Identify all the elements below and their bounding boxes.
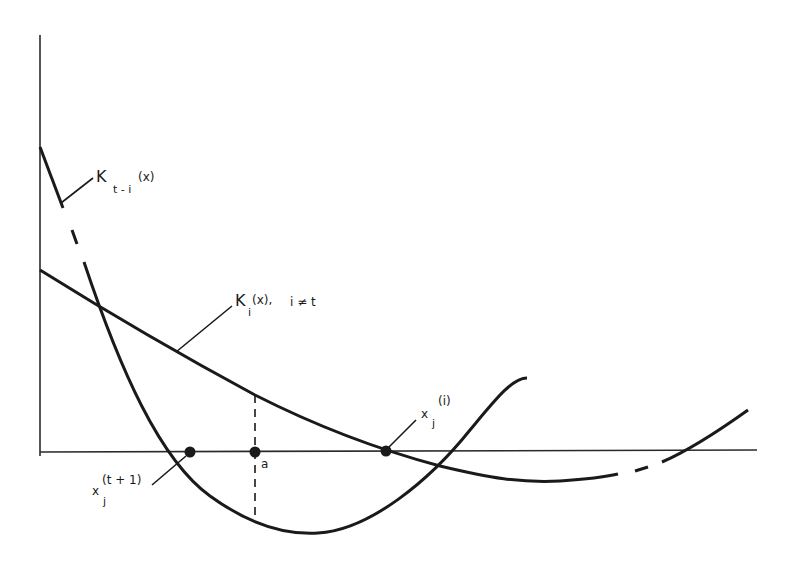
label-x-j-t1-sup: (t + 1) [102, 473, 141, 487]
curve-k-i-right [662, 410, 748, 462]
label-k-t-i-arg: (x) [138, 170, 154, 184]
label-x-j-i-main: x [421, 407, 428, 421]
label-x-j-t1-main: x [92, 484, 99, 498]
diagram-figure: K t - i (x) K i (x), i ≠ t x j (i) a x j… [0, 0, 788, 561]
label-x-j-i: x j (i) [421, 394, 451, 430]
label-x-j-t1: x j (t + 1) [92, 473, 141, 508]
x-axis [40, 450, 757, 452]
label-x-j-t1-sub: j [102, 495, 106, 508]
leader-k-t-i [61, 178, 93, 203]
curve-k-t-i-dash [72, 230, 77, 244]
label-k-i: K i (x), i ≠ t [235, 291, 316, 319]
label-k-i-sub: i [248, 306, 251, 319]
label-a: a [261, 457, 268, 471]
leader-x-j-i [388, 420, 416, 448]
leader-x-j-t1 [152, 456, 186, 485]
label-k-i-cond: i ≠ t [290, 295, 316, 309]
point-a [250, 447, 261, 458]
label-k-i-arg: (x), [252, 293, 272, 307]
leader-k-i [176, 306, 232, 352]
curve-k-t-i-top [40, 147, 63, 208]
label-k-t-i-main: K [96, 167, 107, 186]
label-k-t-i: K t - i (x) [96, 167, 154, 196]
curve-k-i-dash [635, 467, 648, 471]
point-x-j-t1 [185, 447, 196, 458]
label-x-j-i-sub: j [431, 417, 435, 430]
label-x-j-i-sup: (i) [438, 394, 451, 408]
label-k-t-i-sub: t - i [113, 183, 131, 196]
label-k-i-main: K [235, 291, 246, 310]
